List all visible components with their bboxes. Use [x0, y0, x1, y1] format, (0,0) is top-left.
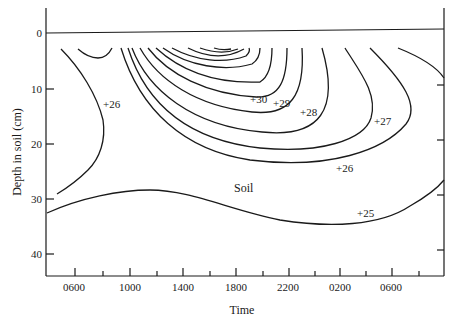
y-tick-labels: 0 10 20 30 40 [31, 27, 43, 260]
x-tick-labels: 0600 1000 1400 1800 2200 0200 0600 [63, 281, 403, 293]
y-tick-40: 40 [31, 248, 43, 260]
contour-inner-2 [200, 48, 238, 52]
contour-small-bowl [78, 48, 112, 58]
y-ticks [46, 85, 444, 254]
x-tick-1800: 1800 [225, 281, 248, 293]
label-26-left: +26 [103, 98, 121, 110]
label-30: +30 [250, 93, 268, 105]
soil-surface-line [46, 29, 444, 33]
contour-30 [156, 48, 272, 82]
y-tick-10: 10 [31, 83, 43, 95]
contour-inner-1 [214, 48, 231, 50]
x-tick-0600-next: 0600 [380, 281, 403, 293]
contour-26-left [57, 49, 104, 194]
label-28: +28 [300, 106, 318, 118]
y-tick-30: 30 [31, 193, 43, 205]
y-axis-title: Depth in soil (cm) [10, 108, 24, 196]
x-tick-0600: 0600 [63, 281, 86, 293]
label-27: +27 [374, 115, 392, 127]
soil-annotation: Soil [234, 181, 254, 195]
x-axis-title: Time [230, 303, 255, 317]
label-26-right: +26 [336, 162, 354, 174]
x-tick-1000: 1000 [119, 281, 142, 293]
x-tick-2200: 2200 [277, 281, 300, 293]
label-25: +25 [357, 207, 375, 219]
label-29: +29 [273, 97, 291, 109]
contour-inner-4 [172, 48, 249, 60]
y-tick-20: 20 [31, 138, 43, 150]
contour-right-corner [398, 48, 444, 78]
x-tick-0200: 0200 [329, 281, 352, 293]
contour-27 [132, 48, 328, 133]
isotherm-chart: 0 10 20 30 40 0600 1000 1400 1800 2200 0… [0, 0, 454, 319]
y-tick-0: 0 [37, 27, 43, 39]
x-tick-1400: 1400 [172, 281, 195, 293]
x-ticks [75, 268, 419, 276]
isotherm-contours [47, 48, 444, 224]
